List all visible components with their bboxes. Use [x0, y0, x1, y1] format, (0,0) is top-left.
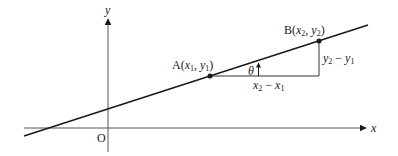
y-axis-label: y [104, 3, 111, 17]
point-b-label: B(x2, y2) [284, 23, 325, 38]
point-a [208, 74, 213, 79]
x-axis-label: x [370, 121, 377, 135]
gradient-diagram: y x O A(x1, y1) B(x2, y2) θ x2 − x1 y2 −… [0, 0, 398, 156]
run-label: x2 − x1 [252, 78, 284, 93]
angle-label: θ [248, 64, 254, 78]
straight-line [24, 25, 368, 136]
point-a-label: A(x1, y1) [172, 58, 213, 73]
origin-label: O [97, 131, 106, 145]
point-b [317, 39, 322, 44]
rise-label: y2 − y1 [322, 51, 354, 66]
